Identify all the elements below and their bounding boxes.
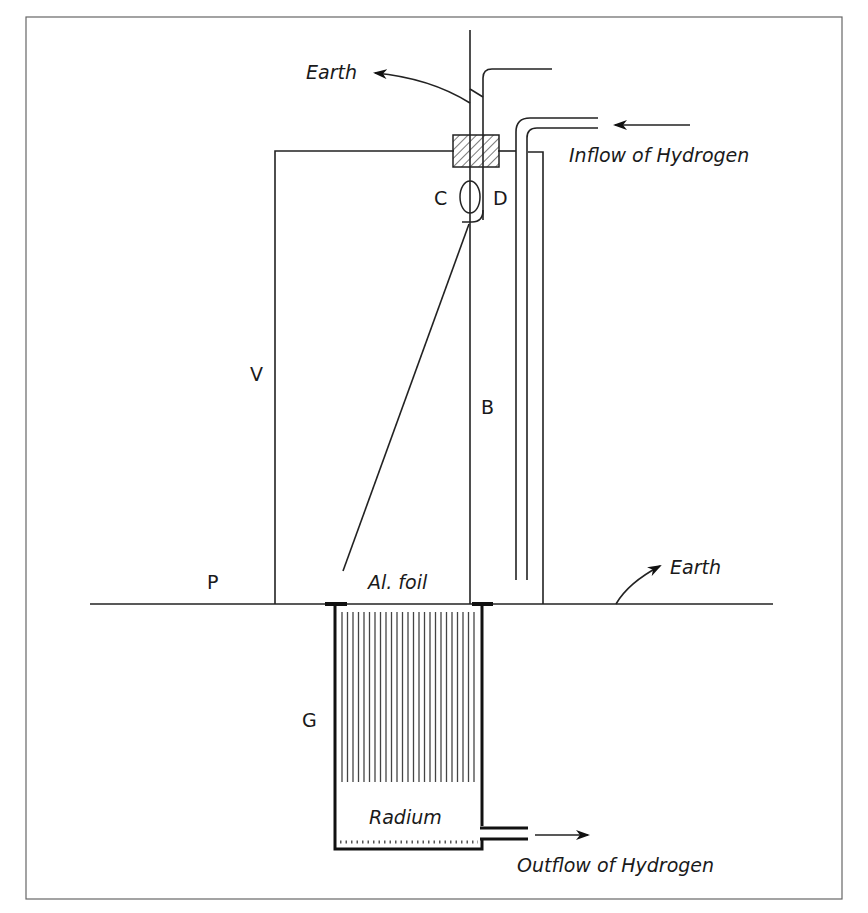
earth-contact xyxy=(470,89,483,97)
label-earth-top: Earth xyxy=(306,61,357,83)
label-v: V xyxy=(250,363,263,385)
label-earth-right: Earth xyxy=(670,556,721,578)
label-outflow: Outflow of Hydrogen xyxy=(517,854,714,876)
label-d: D xyxy=(493,187,508,209)
inflow-tube-outer xyxy=(516,118,598,580)
label-radium: Radium xyxy=(369,806,442,828)
label-p: P xyxy=(207,571,218,593)
inflow-tube-inner xyxy=(527,128,598,580)
label-c: C xyxy=(434,187,447,209)
electroscope-case xyxy=(275,151,454,604)
ray-lines xyxy=(342,612,474,782)
label-foil: Al. foil xyxy=(366,571,428,593)
label-inflow: Inflow of Hydrogen xyxy=(569,144,749,166)
slanted-fibre xyxy=(343,224,469,571)
earth-arrow-top xyxy=(375,73,470,103)
case-right-wall xyxy=(528,152,543,604)
earth-arrow-right xyxy=(616,566,660,604)
label-b: B xyxy=(481,396,494,418)
insulating-plug xyxy=(453,135,499,167)
apparatus-diagram: Earth Inflow of Hydrogen C D V B P Al. f… xyxy=(0,0,868,913)
earth-wire-top xyxy=(483,69,552,97)
label-g: G xyxy=(302,709,317,731)
